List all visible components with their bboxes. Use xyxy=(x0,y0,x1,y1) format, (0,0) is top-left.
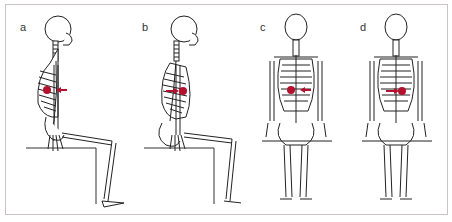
panel-d: d xyxy=(346,5,446,214)
marker-b xyxy=(126,5,241,214)
panel-b: b xyxy=(126,5,241,214)
figure-frame: a xyxy=(5,4,448,215)
panel-c: c xyxy=(246,5,346,214)
panel-a: a xyxy=(6,5,126,214)
marker-c xyxy=(246,5,346,214)
marker-a xyxy=(6,5,126,214)
marker-d xyxy=(346,5,446,214)
